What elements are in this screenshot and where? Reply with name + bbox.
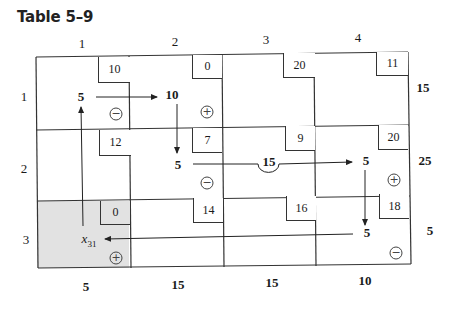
cost-r2c4: 20 <box>378 125 408 150</box>
cost-r3c2: 14 <box>193 198 223 223</box>
cost-r3c3: 16 <box>286 196 316 221</box>
allocation-r1c2: 10 <box>166 87 179 103</box>
demand-column-1: 5 <box>83 279 90 295</box>
plus-sign-icon-r1c2: + <box>201 106 214 119</box>
cost-r2c2: 7 <box>192 128 222 153</box>
supply-row-3: 5 <box>427 223 434 239</box>
cost-r2c1: 12 <box>99 130 131 156</box>
supply-row-1: 15 <box>417 80 430 96</box>
allocation-r2c4: 5 <box>363 153 370 169</box>
cost-r3c1: 0 <box>100 201 130 225</box>
allocation-r2c2: 5 <box>175 157 182 173</box>
plus-sign-icon-r3c1: + <box>110 252 123 265</box>
cost-r1c3: 20 <box>283 53 315 78</box>
cost-r1c1: 10 <box>98 57 130 83</box>
minus-sign-icon-r1c1: − <box>110 108 123 121</box>
demand-column-3: 15 <box>266 275 279 291</box>
minus-sign-icon-r3c4: − <box>390 247 403 260</box>
allocation-r2c3: 15 <box>263 154 276 170</box>
allocation-r1c1: 5 <box>78 89 85 105</box>
plus-sign-icon-r2c4: + <box>388 174 401 187</box>
entering-variable-x31: x31 <box>82 231 97 249</box>
allocation-r3c4: 5 <box>364 225 371 241</box>
demand-column-2: 15 <box>172 277 185 293</box>
cost-r3c4: 18 <box>379 194 409 219</box>
tableau-grid <box>0 0 452 312</box>
demand-column-4: 10 <box>359 273 372 289</box>
minus-sign-icon-r2c2: − <box>201 177 214 190</box>
cost-r1c2: 0 <box>192 55 222 79</box>
cost-r1c4: 11 <box>376 52 408 76</box>
cost-r2c3: 9 <box>285 126 315 151</box>
supply-row-2: 25 <box>419 153 432 169</box>
